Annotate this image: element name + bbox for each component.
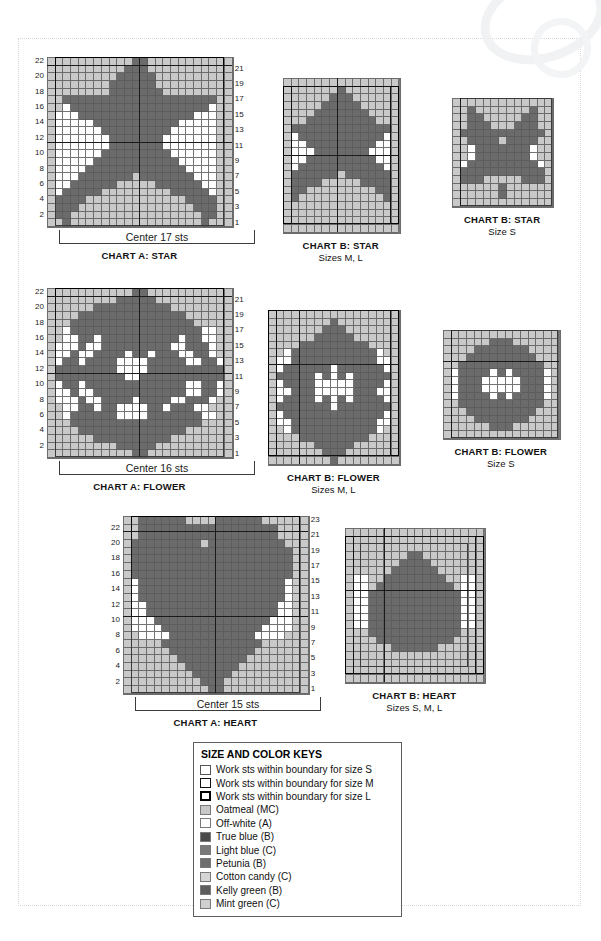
stitch-cell <box>262 548 270 556</box>
stitch-cell <box>369 194 377 202</box>
stitch-cell <box>125 81 133 89</box>
stitch-cell <box>117 435 125 443</box>
stitch-cell <box>148 304 156 312</box>
stitch-cell <box>315 396 323 404</box>
stitch-grid[interactable] <box>47 288 234 459</box>
stitch-grid[interactable] <box>123 516 310 695</box>
stitch-cell <box>270 663 278 671</box>
legend-item-label: Off-white (A) <box>216 818 272 829</box>
stitch-cell <box>110 343 118 351</box>
stitch-cell <box>331 365 339 373</box>
stitch-cell <box>515 130 523 138</box>
stitch-cell <box>125 312 133 320</box>
stitch-cell <box>56 443 64 451</box>
stitch-cell <box>338 156 346 164</box>
stitch-cell <box>270 594 278 602</box>
stitch-cell <box>369 529 377 537</box>
stitch-cell <box>86 320 94 328</box>
stitch-cell <box>163 81 171 89</box>
stitch-cell <box>186 412 194 420</box>
stitch-cell <box>461 184 469 192</box>
stitch-cell <box>247 540 255 548</box>
stitch-cell <box>217 289 225 297</box>
stitch-cell <box>202 335 210 343</box>
stitch-cell <box>277 357 285 365</box>
stitch-cell <box>48 435 56 443</box>
stitch-cell <box>293 655 301 663</box>
stitch-cell <box>148 150 156 158</box>
stitch-grid[interactable] <box>345 528 486 684</box>
stitch-cell <box>338 388 346 396</box>
stitch-cell <box>346 629 354 637</box>
stitch-cell <box>79 196 87 204</box>
stitch-cell <box>186 58 194 66</box>
stitch-cell <box>468 145 476 153</box>
stitch-grid[interactable] <box>443 330 561 440</box>
row-number: 2 <box>40 211 44 219</box>
stitch-grid[interactable] <box>452 98 554 208</box>
stitch-cell <box>293 686 301 694</box>
stitch-cell <box>353 102 361 110</box>
stitch-cell <box>255 517 263 525</box>
chart-title-subtitle: Size S <box>452 226 552 238</box>
stitch-cell <box>392 544 400 552</box>
stitch-cell <box>255 655 263 663</box>
center-sts-label: Center 17 sts <box>126 231 188 243</box>
stitch-cell <box>322 110 330 118</box>
stitch-cell <box>353 187 361 195</box>
stitch-cell <box>86 143 94 151</box>
stitch-cell <box>201 571 209 579</box>
stitch-cell <box>209 358 217 366</box>
stitch-cell <box>284 171 292 179</box>
stitch-cell <box>530 199 538 207</box>
stitch-cell <box>331 442 339 450</box>
stitch-cell <box>225 312 233 320</box>
stitch-cell <box>225 219 233 227</box>
stitch-cell <box>322 202 330 210</box>
stitch-cell <box>163 73 171 81</box>
stitch-cell <box>156 397 164 405</box>
stitch-cell <box>469 660 477 668</box>
stitch-cell <box>278 632 286 640</box>
stitch-cell <box>353 179 361 187</box>
stitch-cell <box>376 117 384 125</box>
stitch-cell <box>392 637 400 645</box>
stitch-cell <box>301 594 309 602</box>
stitch-cell <box>369 133 377 141</box>
stitch-cell <box>232 517 240 525</box>
stitch-grid[interactable] <box>283 78 401 234</box>
stitch-cell <box>284 117 292 125</box>
stitch-cell <box>392 598 400 606</box>
stitch-cell <box>498 362 506 370</box>
stitch-cell <box>124 579 132 587</box>
stitch-grid[interactable] <box>47 57 234 228</box>
stitch-cell <box>133 335 141 343</box>
stitch-cell <box>186 555 194 563</box>
stitch-cell <box>338 110 346 118</box>
row-number: 20 <box>35 303 44 311</box>
stitch-cell <box>193 555 201 563</box>
row-number: 1 <box>235 450 239 458</box>
stitch-cell <box>330 187 338 195</box>
stitch-cell <box>444 393 452 401</box>
stitch-cell <box>102 358 110 366</box>
stitch-cell <box>148 374 156 382</box>
stitch-cell <box>102 150 110 158</box>
stitch-cell <box>193 648 201 656</box>
stitch-cell <box>292 79 300 87</box>
stitch-cell <box>202 104 210 112</box>
stitch-cell <box>202 181 210 189</box>
row-number: 6 <box>40 411 44 419</box>
stitch-cell <box>292 94 300 102</box>
row-number: 19 <box>235 80 244 88</box>
stitch-cell <box>468 153 476 161</box>
stitch-cell <box>94 420 102 428</box>
stitch-cell <box>552 431 560 439</box>
stitch-cell <box>354 652 362 660</box>
stitch-cell <box>469 591 477 599</box>
stitch-cell <box>255 555 263 563</box>
stitch-cell <box>102 89 110 97</box>
stitch-cell <box>522 176 530 184</box>
stitch-grid[interactable] <box>268 310 401 466</box>
stitch-cell <box>285 563 293 571</box>
